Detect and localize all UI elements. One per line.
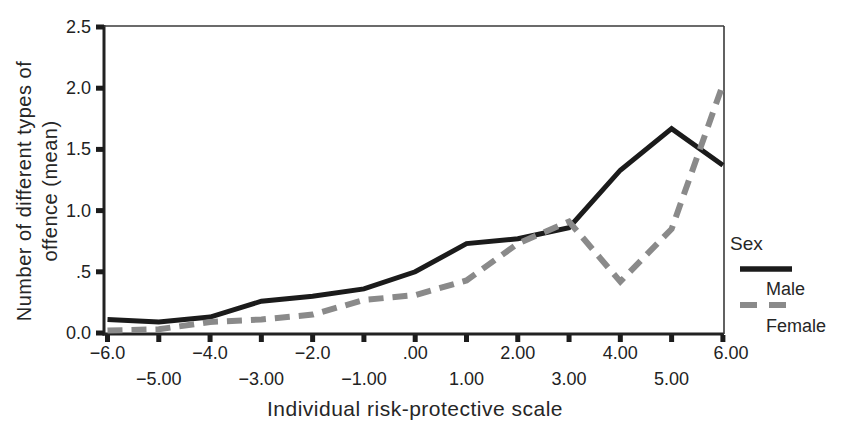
- y-tick-label: 2.5: [66, 17, 91, 37]
- legend-title: Sex: [730, 233, 763, 255]
- x-tick-label: −3.00: [239, 369, 285, 389]
- x-tick-label: 3.00: [552, 369, 587, 389]
- x-tick-label: 2.00: [500, 343, 535, 363]
- legend-label-female: Female: [766, 316, 826, 337]
- x-tick-label: −4.0: [192, 343, 228, 363]
- y-tick-label: 1.0: [66, 201, 91, 221]
- legend-label-male: Male: [766, 279, 805, 300]
- y-tick-label: 1.5: [66, 139, 91, 159]
- figure: 0.0.51.01.52.02.5−6.0−5.00−4.0−3.00−2.0−…: [0, 0, 844, 435]
- x-tick-label: 5.00: [654, 369, 689, 389]
- x-tick-label: .00: [403, 343, 428, 363]
- y-tick-label: 2.0: [66, 78, 91, 98]
- x-axis-title: Individual risk-protective scale: [215, 397, 615, 421]
- line-chart: 0.0.51.01.52.02.5−6.0−5.00−4.0−3.00−2.0−…: [0, 0, 844, 435]
- x-tick-label: −1.00: [341, 369, 387, 389]
- y-axis-title-line1: Number of different types of: [11, 31, 37, 351]
- x-tick-label: −6.0: [90, 343, 126, 363]
- x-tick-label: 4.00: [603, 343, 638, 363]
- x-tick-label: 6.00: [713, 343, 748, 363]
- female-series-line: [108, 85, 723, 331]
- y-tick-label: .5: [76, 262, 91, 282]
- y-axis-title-line2: offence (mean): [37, 31, 63, 351]
- x-tick-label: −5.00: [136, 369, 182, 389]
- y-axis-title: Number of different types of offence (me…: [11, 31, 65, 351]
- y-tick-label: 0.0: [66, 323, 91, 343]
- male-series-line: [108, 129, 723, 322]
- x-tick-label: 1.00: [449, 369, 484, 389]
- x-tick-label: −2.0: [295, 343, 331, 363]
